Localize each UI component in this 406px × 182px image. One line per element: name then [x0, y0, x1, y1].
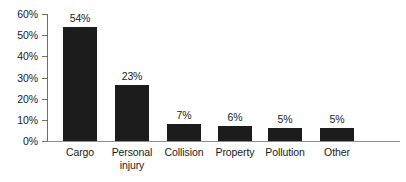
y-tick-mark-10: [42, 120, 48, 121]
bar-value-collision: 7%: [157, 109, 211, 121]
bar-pollution: [268, 128, 302, 141]
category-label-other-line1: Other: [324, 146, 350, 158]
bar-other: [320, 128, 354, 141]
bar-property: [218, 126, 252, 141]
y-tick-mark-60: [42, 14, 48, 15]
bar-value-cargo: 54%: [53, 12, 107, 24]
y-tick-mark-50: [42, 35, 48, 36]
category-label-pollution-line1: Pollution: [265, 146, 304, 158]
y-tick-label-50: 50%: [0, 30, 38, 41]
x-axis-baseline: [47, 141, 400, 142]
category-label-property-line1: Property: [216, 146, 255, 158]
category-label-cargo-line1: Cargo: [66, 146, 94, 158]
category-label-personal-injury-line2: injury: [102, 159, 162, 172]
bar-chart: 60% 50% 40% 30% 20% 10% 0% 54% 23% 7% 6%…: [0, 0, 406, 182]
bar-value-other: 5%: [310, 113, 364, 125]
y-tick-mark-20: [42, 99, 48, 100]
bar-personal-injury: [115, 85, 149, 141]
bar-value-property: 6%: [208, 111, 262, 123]
bar-collision: [167, 124, 201, 141]
category-label-other: Other: [307, 146, 367, 159]
y-tick-mark-30: [42, 78, 48, 79]
y-tick-label-10: 10%: [0, 115, 38, 126]
category-label-personal-injury-line1: Personal: [112, 146, 153, 158]
category-label-cargo: Cargo: [50, 146, 110, 159]
y-tick-label-30: 30%: [0, 73, 38, 84]
y-tick-label-0: 0%: [0, 136, 38, 147]
bar-value-personal-injury: 23%: [105, 70, 159, 82]
y-tick-label-40: 40%: [0, 51, 38, 62]
bar-cargo: [63, 27, 97, 141]
y-tick-label-60: 60%: [0, 9, 38, 20]
y-tick-label-20: 20%: [0, 94, 38, 105]
bar-value-pollution: 5%: [258, 113, 312, 125]
y-tick-mark-40: [42, 56, 48, 57]
category-label-collision-line1: Collision: [165, 146, 204, 158]
category-label-pollution: Pollution: [255, 146, 315, 159]
